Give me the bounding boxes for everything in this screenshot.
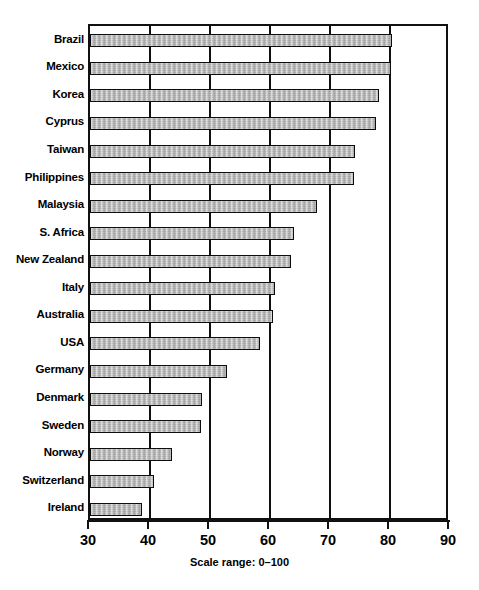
bar-row bbox=[90, 393, 450, 406]
bar-row bbox=[90, 503, 450, 516]
plot-area bbox=[88, 24, 448, 520]
bar-row bbox=[90, 420, 450, 433]
bar-australia bbox=[90, 310, 273, 323]
category-label-sweden: Sweden bbox=[0, 419, 84, 432]
category-label-ireland: Ireland bbox=[0, 501, 84, 514]
bar-row bbox=[90, 200, 450, 213]
bar-row bbox=[90, 172, 450, 185]
bar-malaysia bbox=[90, 200, 317, 213]
x-tick-label-70: 70 bbox=[308, 532, 348, 548]
bar-row bbox=[90, 365, 450, 378]
bar-cyprus bbox=[90, 117, 376, 130]
x-tick-50 bbox=[207, 520, 209, 529]
x-tick-80 bbox=[387, 520, 389, 529]
x-tick-30 bbox=[87, 520, 89, 529]
bar-norway bbox=[90, 448, 172, 461]
category-label-denmark: Denmark bbox=[0, 391, 84, 404]
x-tick-label-40: 40 bbox=[128, 532, 168, 548]
caption-fragment bbox=[38, 578, 438, 590]
category-label-germany: Germany bbox=[0, 363, 84, 376]
bar-row bbox=[90, 145, 450, 158]
bar-taiwan bbox=[90, 145, 355, 158]
x-tick-90 bbox=[447, 520, 449, 529]
x-tick-label-90: 90 bbox=[428, 532, 468, 548]
category-label-cyprus: Cyprus bbox=[0, 115, 84, 128]
bar-row bbox=[90, 62, 450, 75]
category-label-s-africa: S. Africa bbox=[0, 226, 84, 239]
bar-korea bbox=[90, 89, 379, 102]
bar-row bbox=[90, 117, 450, 130]
bar-mexico bbox=[90, 62, 391, 75]
x-tick-label-60: 60 bbox=[248, 532, 288, 548]
x-axis bbox=[88, 520, 450, 530]
bar-row bbox=[90, 89, 450, 102]
x-tick-label-80: 80 bbox=[368, 532, 408, 548]
bar-germany bbox=[90, 365, 227, 378]
category-label-mexico: Mexico bbox=[0, 60, 84, 73]
bar-row bbox=[90, 282, 450, 295]
bar-philippines bbox=[90, 172, 354, 185]
bar-row bbox=[90, 34, 450, 47]
bar-row bbox=[90, 255, 450, 268]
x-tick-60 bbox=[267, 520, 269, 529]
x-tick-40 bbox=[147, 520, 149, 529]
category-label-usa: USA bbox=[0, 336, 84, 349]
category-label-new-zealand: New Zealand bbox=[0, 253, 84, 266]
x-tick-70 bbox=[327, 520, 329, 529]
category-label-norway: Norway bbox=[0, 446, 84, 459]
x-axis-tick-labels: 30405060708090 bbox=[0, 532, 479, 552]
scale-range-note: Scale range: 0–100 bbox=[0, 556, 479, 568]
category-label-brazil: Brazil bbox=[0, 33, 84, 46]
category-label-korea: Korea bbox=[0, 88, 84, 101]
bar-switzerland bbox=[90, 475, 154, 488]
category-label-switzerland: Switzerland bbox=[0, 474, 84, 487]
category-axis-labels: BrazilMexicoKoreaCyprusTaiwanPhilippines… bbox=[0, 24, 84, 520]
bar-row bbox=[90, 448, 450, 461]
bar-s-africa bbox=[90, 227, 294, 240]
bar-row bbox=[90, 475, 450, 488]
x-tick-label-30: 30 bbox=[68, 532, 108, 548]
category-label-malaysia: Malaysia bbox=[0, 198, 84, 211]
bar-chart-figure: BrazilMexicoKoreaCyprusTaiwanPhilippines… bbox=[0, 0, 479, 590]
category-label-australia: Australia bbox=[0, 308, 84, 321]
category-label-taiwan: Taiwan bbox=[0, 143, 84, 156]
bar-row bbox=[90, 227, 450, 240]
bar-sweden bbox=[90, 420, 201, 433]
x-tick-label-50: 50 bbox=[188, 532, 228, 548]
bar-new-zealand bbox=[90, 255, 291, 268]
category-label-philippines: Philippines bbox=[0, 171, 84, 184]
bar-brazil bbox=[90, 34, 392, 47]
bar-row bbox=[90, 337, 450, 350]
bar-ireland bbox=[90, 503, 142, 516]
bar-usa bbox=[90, 337, 260, 350]
bars-layer bbox=[90, 26, 446, 518]
x-axis-line bbox=[88, 520, 450, 522]
category-label-italy: Italy bbox=[0, 281, 84, 294]
bar-denmark bbox=[90, 393, 202, 406]
bar-row bbox=[90, 310, 450, 323]
bar-italy bbox=[90, 282, 275, 295]
